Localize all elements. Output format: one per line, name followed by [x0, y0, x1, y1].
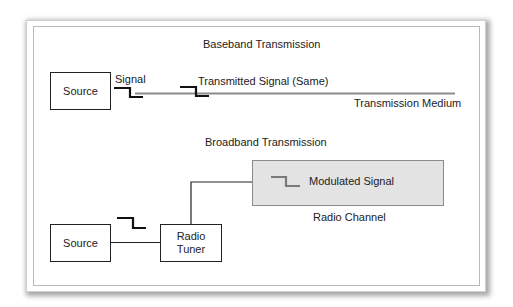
transmitted-signal-step-icon: [180, 87, 209, 96]
broadband-source-box: Source: [50, 224, 111, 262]
modulated-step-icon: [271, 177, 300, 186]
radio-tuner-label-line2: Tuner: [177, 243, 205, 256]
baseband-title: Baseband Transmission: [203, 38, 320, 50]
transmission-medium-label: Transmission Medium: [354, 97, 461, 109]
baseband-source-label: Source: [63, 85, 98, 98]
radio-tuner-label-line1: Radio: [177, 230, 206, 243]
broadband-source-label: Source: [63, 237, 98, 250]
modulated-signal-label: Modulated Signal: [309, 175, 394, 187]
radio-tuner-box: Radio Tuner: [160, 224, 222, 262]
tuner-channel-connector: [191, 182, 252, 224]
broadband-title: Broadband Transmission: [205, 136, 327, 148]
signal-label: Signal: [115, 73, 146, 85]
broadband-signal-step-icon: [117, 218, 146, 228]
radio-channel-label: Radio Channel: [313, 211, 386, 223]
baseband-source-box: Source: [50, 72, 111, 110]
transmitted-signal-label: Transmitted Signal (Same): [198, 75, 328, 87]
